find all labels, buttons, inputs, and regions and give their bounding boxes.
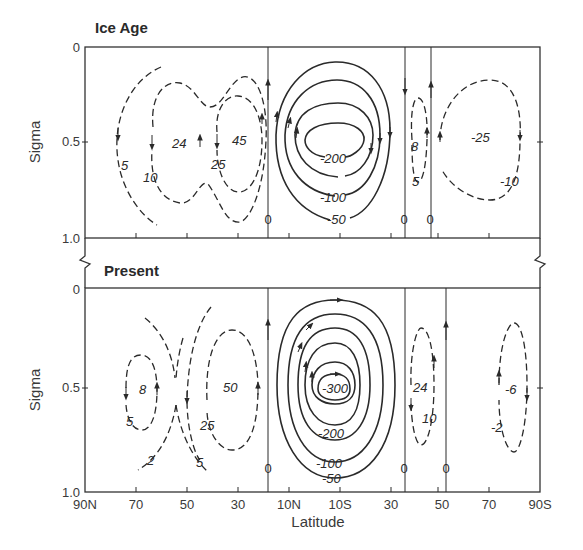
svg-text:-25: -25 [471, 130, 491, 145]
svg-text:5: 5 [196, 455, 204, 470]
ice-contour-5 [117, 67, 161, 225]
svg-text:0: 0 [442, 461, 449, 476]
svg-text:90N: 90N [73, 497, 97, 512]
svg-text:-50: -50 [322, 471, 342, 486]
svg-text:25: 25 [199, 418, 215, 433]
svg-text:-300: -300 [322, 381, 349, 396]
svg-text:-100: -100 [316, 456, 343, 471]
svg-text:-200: -200 [318, 426, 345, 441]
svg-text:5: 5 [126, 414, 134, 429]
svg-text:70: 70 [482, 497, 496, 512]
ice-contour-m100 [285, 80, 380, 196]
svg-text:-6: -6 [505, 382, 517, 397]
svg-text:8: 8 [411, 139, 419, 154]
x-tick-labels: 90N 70 50 30 10N 10S 30 50 70 90S [73, 497, 552, 512]
present-panel: Present 0 0.5 1.0 0 0 0 8 5 [62, 262, 543, 500]
svg-text:30: 30 [231, 497, 245, 512]
svg-text:8: 8 [139, 382, 147, 397]
svg-text:0.5: 0.5 [62, 380, 80, 395]
xlabel: Latitude [291, 513, 344, 530]
svg-text:45: 45 [232, 133, 247, 148]
ice-ytick-1: 1.0 [62, 231, 80, 246]
svg-text:0: 0 [264, 212, 271, 227]
meridional-streamfunction-figure: Ice Age 0 0.5 1.0 0 0 0 5 [0, 0, 583, 550]
svg-text:50: 50 [180, 497, 194, 512]
present-title: Present [104, 262, 159, 279]
svg-text:0: 0 [73, 282, 80, 297]
svg-text:5: 5 [121, 158, 129, 173]
svg-text:10N: 10N [277, 497, 301, 512]
present-contour-2b [138, 405, 176, 470]
svg-text:24: 24 [171, 136, 186, 151]
present-contour-2a [145, 318, 175, 378]
ice-age-title: Ice Age [95, 19, 148, 36]
svg-text:10: 10 [143, 170, 158, 185]
svg-text:10: 10 [422, 411, 437, 426]
svg-text:0: 0 [400, 461, 407, 476]
svg-text:50: 50 [435, 497, 449, 512]
svg-text:0: 0 [264, 461, 271, 476]
svg-text:-2: -2 [491, 420, 503, 435]
svg-text:2: 2 [146, 453, 155, 468]
present-ylabel: Sigma [26, 368, 43, 411]
svg-text:-10: -10 [500, 174, 520, 189]
ice-ytick-05: 0.5 [62, 134, 80, 149]
svg-text:5: 5 [412, 174, 420, 189]
axis-break-right [535, 238, 545, 288]
svg-text:90S: 90S [528, 497, 551, 512]
svg-text:0: 0 [400, 212, 407, 227]
svg-text:25: 25 [210, 157, 226, 172]
svg-text:24: 24 [412, 380, 427, 395]
svg-text:50: 50 [223, 380, 238, 395]
ice-age-panel: Ice Age 0 0.5 1.0 0 0 0 5 [62, 19, 543, 246]
ice-ytick-0: 0 [73, 40, 80, 55]
ice-contour-10 [152, 77, 266, 222]
svg-text:-100: -100 [320, 190, 347, 205]
svg-text:-50: -50 [327, 212, 347, 227]
ice-ylabel: Sigma [26, 120, 43, 163]
present-x-ticks [136, 487, 489, 492]
svg-text:10S: 10S [328, 497, 351, 512]
axis-break-left [80, 238, 90, 288]
ice-x-ticks [136, 233, 489, 238]
svg-text:0: 0 [426, 212, 433, 227]
svg-text:-200: -200 [320, 151, 347, 166]
svg-text:70: 70 [129, 497, 143, 512]
svg-text:30: 30 [384, 497, 398, 512]
